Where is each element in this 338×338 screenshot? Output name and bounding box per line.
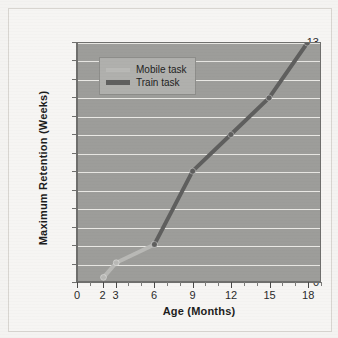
x-tick-label: 0	[74, 290, 80, 301]
x-tick-minor	[321, 282, 322, 286]
plot-area: Mobile task Train task	[77, 42, 321, 282]
x-tick-label: 12	[225, 290, 237, 301]
x-tick-major	[77, 282, 78, 288]
figure-frame: 012345678910111213 Maximum Retention (We…	[8, 8, 332, 332]
x-tick-minor	[205, 282, 206, 286]
x-tick-minor	[218, 282, 219, 286]
legend-label-mobile-task: Mobile task	[136, 65, 187, 75]
x-tick-label: 9	[190, 290, 196, 301]
series-line-mobile-task	[103, 244, 154, 277]
x-tick-minor	[282, 282, 283, 286]
figure-page: 012345678910111213 Maximum Retention (We…	[0, 0, 338, 338]
x-tick-major	[154, 282, 155, 288]
data-point	[100, 274, 106, 280]
legend: Mobile task Train task	[99, 57, 196, 95]
x-tick-minor	[180, 282, 181, 286]
x-tick-major	[231, 282, 232, 288]
data-point	[228, 132, 234, 138]
x-tick-label: 15	[264, 290, 276, 301]
x-tick-major	[116, 282, 117, 288]
x-tick-major	[193, 282, 194, 288]
data-point	[190, 168, 196, 174]
x-tick-major	[103, 282, 104, 288]
x-tick-minor	[141, 282, 142, 286]
x-tick-minor	[244, 282, 245, 286]
x-tick-label: 6	[151, 290, 157, 301]
x-tick-major	[270, 282, 271, 288]
legend-swatch-train-task	[106, 80, 130, 85]
x-tick-minor	[167, 282, 168, 286]
x-tick-minor	[90, 282, 91, 286]
x-tick-label: 3	[112, 290, 118, 301]
legend-label-train-task: Train task	[136, 78, 180, 88]
x-tick-label: 18	[302, 290, 314, 301]
x-tick-minor	[257, 282, 258, 286]
x-axis-line	[77, 282, 321, 283]
x-tick-minor	[128, 282, 129, 286]
legend-swatch-mobile-task	[106, 68, 130, 72]
x-axis-title: Age (Months)	[77, 305, 321, 317]
data-point	[113, 260, 119, 266]
x-axis	[77, 282, 321, 289]
x-tick-minor	[295, 282, 296, 286]
x-tick-label: 2	[100, 290, 106, 301]
legend-item-mobile-task: Mobile task	[106, 63, 187, 76]
data-point	[266, 95, 272, 101]
data-point	[304, 43, 310, 46]
legend-item-train-task: Train task	[106, 76, 187, 89]
data-point	[151, 241, 157, 247]
y-axis-title: Maximum Retention (Weeks)	[37, 68, 49, 268]
x-tick-major	[308, 282, 309, 288]
